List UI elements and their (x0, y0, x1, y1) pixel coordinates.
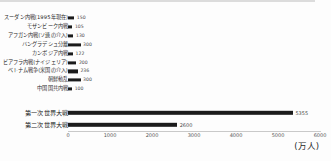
bar-value-label: 5355 (295, 110, 308, 115)
bar-track: スーダン内戦(1995年現在)150 (68, 14, 320, 22)
bar-track: アフガン内戦(ソ連の介入)130 (68, 32, 320, 40)
bar-value-label: 2600 (180, 123, 193, 128)
bar (68, 43, 81, 46)
bar (68, 16, 74, 19)
bar-track: 中国国共内戦100 (68, 85, 320, 93)
bar (68, 110, 293, 114)
bar-value-label: 130 (76, 34, 85, 39)
bar-row: 第一次世界大戦5355 (0, 107, 331, 118)
bar-value-label: 200 (79, 60, 88, 65)
bar-value-label: 105 (75, 25, 84, 30)
bar-category-label: 中国国共内戦 (37, 87, 68, 92)
bar (68, 70, 78, 73)
chart-page: スーダン内戦(1995年現在)150モザンビーク内戦105アフガン内戦(ソ連の介… (0, 0, 331, 161)
bar (68, 52, 73, 55)
bar (68, 79, 81, 82)
bar-row: 朝鮮動乱300 (0, 76, 331, 84)
x-axis-tick-label: 0 (66, 133, 69, 138)
bottom-divider (0, 1, 315, 2)
bar-value-label: 122 (76, 51, 85, 56)
bar-category-label: スーダン内戦(1995年現在) (4, 15, 68, 20)
bar-row: 第二次世界大戦2600 (0, 120, 331, 131)
bar-category-label: 第一次世界大戦 (25, 109, 68, 115)
bar-value-label: 300 (83, 78, 92, 83)
bar-row: カンボジア内戦122 (0, 50, 331, 58)
bar (68, 61, 76, 64)
bar-row: バングラデシュ分離300 (0, 41, 331, 49)
bar-row: スーダン内戦(1995年現在)150 (0, 14, 331, 22)
bar-row: ベトナム戦争(米国の介入)236 (0, 67, 331, 75)
bar-track: 第一次世界大戦5355 (68, 107, 320, 118)
x-axis-tick-label: 1000 (104, 133, 117, 138)
bar-value-label: 300 (83, 42, 92, 47)
x-axis-tick-label: 4000 (230, 133, 243, 138)
plot-area: スーダン内戦(1995年現在)150モザンビーク内戦105アフガン内戦(ソ連の介… (0, 12, 331, 144)
bar-category-label: モザンビーク内戦 (27, 24, 68, 29)
unit-label: (万人) (294, 142, 319, 151)
bar-track: バングラデシュ分離300 (68, 41, 320, 49)
bar-value-label: 100 (75, 87, 84, 92)
bar-row: アフガン内戦(ソ連の介入)130 (0, 32, 331, 40)
bar-row: 中国国共内戦100 (0, 85, 331, 93)
bar-track: カンボジア内戦122 (68, 50, 320, 58)
bar-row: ビアフラ内戦(ナイジェリア)200 (0, 59, 331, 67)
bar-value-label: 236 (80, 69, 89, 74)
bar-category-label: ベトナム戦争(米国の介入) (8, 69, 68, 74)
x-axis-tick-label: 2000 (146, 133, 159, 138)
bar-category-label: バングラデシュ分離 (22, 42, 68, 47)
bar-track: ビアフラ内戦(ナイジェリア)200 (68, 59, 320, 67)
bar-row: モザンビーク内戦105 (0, 23, 331, 31)
bar-track: 第二次世界大戦2600 (68, 120, 320, 131)
bar-category-label: アフガン内戦(ソ連の介入) (8, 33, 68, 38)
x-axis-tick-label: 6000 (314, 133, 327, 138)
x-axis-tick-label: 3000 (188, 133, 201, 138)
bar-category-label: ビアフラ内戦(ナイジェリア) (3, 60, 68, 65)
bar (68, 88, 72, 91)
bar-category-label: 朝鮮動乱 (48, 78, 68, 83)
x-axis-tick-label: 5000 (272, 133, 285, 138)
bar-category-label: 第二次世界大戦 (25, 122, 68, 128)
bar (68, 25, 72, 28)
bar (68, 34, 73, 37)
bar-value-label: 150 (77, 16, 86, 21)
bar-track: 朝鮮動乱300 (68, 76, 320, 84)
bar-track: モザンビーク内戦105 (68, 23, 320, 31)
bar-category-label: カンボジア内戦 (32, 51, 68, 56)
bar-track: ベトナム戦争(米国の介入)236 (68, 67, 320, 75)
bar (68, 123, 177, 127)
